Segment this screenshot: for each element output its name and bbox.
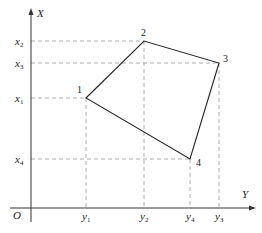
quadrilateral-coordinate-diagram: X Y O x2 x3 x1 x4 y1 y2 y4 y3 1 2 3 4 <box>0 0 262 233</box>
vertical-axis-arrow-icon <box>29 8 34 15</box>
quadrilateral-1234 <box>86 41 219 159</box>
point-3-label: 3 <box>223 53 228 64</box>
tick-x1: x1 <box>14 92 24 106</box>
tick-x3: x3 <box>14 57 24 71</box>
tick-x4: x4 <box>14 153 24 167</box>
tick-y1: y1 <box>81 210 91 224</box>
horizontal-axis-label: Y <box>242 188 250 200</box>
point-2-label: 2 <box>141 27 146 38</box>
axes <box>10 12 252 222</box>
horizontal-axis-arrow-icon <box>249 206 256 211</box>
point-4-label: 4 <box>196 157 201 168</box>
tick-y2: y2 <box>139 210 149 224</box>
vertical-axis-label: X <box>36 7 45 19</box>
point-1-label: 1 <box>77 84 82 95</box>
guide-lines <box>31 41 219 208</box>
origin-label: O <box>13 209 21 221</box>
tick-y3: y3 <box>214 210 224 224</box>
tick-x2: x2 <box>14 35 24 49</box>
tick-y4: y4 <box>185 210 195 224</box>
